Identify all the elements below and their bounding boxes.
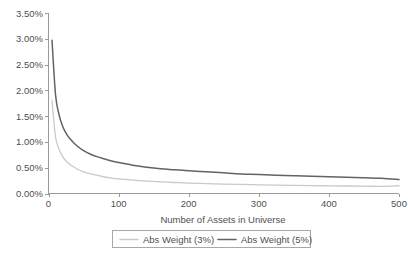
chart-container: 0.00%0.50%1.00%1.50%2.00%2.50%3.00%3.50%… bbox=[0, 0, 408, 258]
x-axis-tick-label: 500 bbox=[391, 198, 407, 209]
legend-label-2: Abs Weight (5%) bbox=[241, 234, 312, 245]
y-axis-tick-label: 1.50% bbox=[16, 111, 43, 122]
x-axis-tick-label: 200 bbox=[181, 198, 197, 209]
y-axis-tick-labels: 0.00%0.50%1.00%1.50%2.00%2.50%3.00%3.50% bbox=[16, 8, 43, 200]
x-axis-tick-label: 100 bbox=[111, 198, 127, 209]
x-axis-tick-label: 400 bbox=[321, 198, 337, 209]
y-axis-tick-label: 3.00% bbox=[16, 33, 43, 44]
x-axis-tick-marks bbox=[49, 194, 400, 198]
y-axis-tick-label: 0.50% bbox=[16, 162, 43, 173]
x-axis-tick-labels: 0100200300400500 bbox=[46, 198, 407, 209]
y-axis-tick-label: 2.00% bbox=[16, 85, 43, 96]
series-line-2 bbox=[52, 40, 399, 179]
y-axis-tick-label: 3.50% bbox=[16, 8, 43, 19]
y-axis-tick-label: 0.00% bbox=[16, 188, 43, 199]
line-chart: 0.00%0.50%1.00%1.50%2.00%2.50%3.00%3.50%… bbox=[0, 0, 408, 258]
x-axis-tick-label: 0 bbox=[46, 198, 51, 209]
data-series-group bbox=[52, 40, 399, 186]
y-axis-tick-label: 2.50% bbox=[16, 59, 43, 70]
chart-legend: Abs Weight (3%)Abs Weight (5%) bbox=[113, 231, 313, 248]
y-axis-tick-label: 1.00% bbox=[16, 136, 43, 147]
y-axis-tick-marks bbox=[45, 14, 49, 195]
x-axis-tick-label: 300 bbox=[251, 198, 267, 209]
x-axis-title: Number of Assets in Universe bbox=[160, 214, 285, 225]
legend-label-1: Abs Weight (3%) bbox=[143, 234, 214, 245]
